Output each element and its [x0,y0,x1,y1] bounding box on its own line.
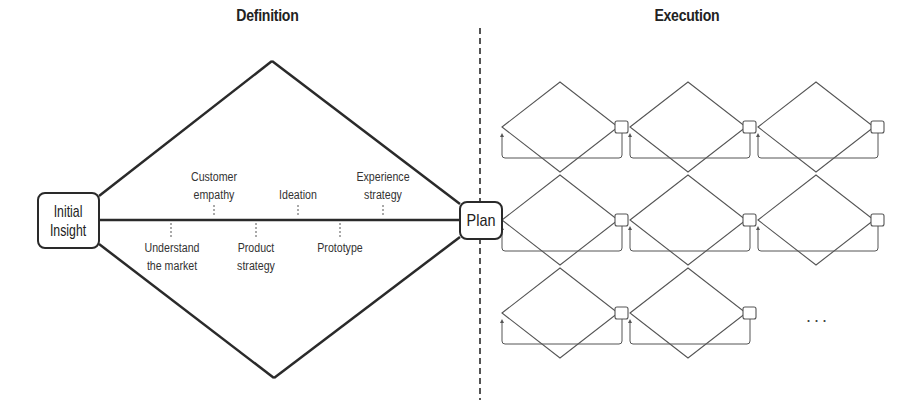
iteration-output-node [743,214,756,226]
execution-iteration [500,175,628,265]
execution-iteration [628,82,756,172]
iteration-output-node [615,214,628,226]
feedback-loop-arrow [630,226,750,251]
step-label-line: the market [145,257,200,275]
initial-insight-line-2: Insight [50,221,86,240]
feedback-loop-arrow [502,133,622,158]
initial-insight-line-1: Initial [50,202,86,221]
arrowhead-icon [628,133,632,137]
plan-label: Plan [467,211,496,230]
step-label-line: Customer [191,168,237,186]
feedback-loop-arrow [502,226,622,251]
arrowhead-icon [628,319,632,323]
feedback-loop-arrow [758,226,878,251]
step-understand-the-market: Understand the market [145,239,200,275]
arrowhead-icon [500,319,504,323]
feedback-loop-arrow [502,319,622,344]
step-label-line: Product [237,239,275,257]
iteration-output-node [615,307,628,319]
iteration-output-node [871,214,884,226]
iteration-output-node [871,121,884,133]
step-ideation: Ideation [279,186,317,204]
continuation-ellipsis: ... [806,306,830,327]
step-product-strategy: Product strategy [237,239,275,275]
execution-iteration [756,82,884,172]
step-label-line: Understand [145,239,200,257]
arrowhead-icon [500,133,504,137]
step-customer-empathy: Customer empathy [191,168,237,204]
execution-iteration [628,175,756,265]
step-label-line: strategy [356,186,409,204]
iteration-output-node [743,121,756,133]
execution-iteration [756,175,884,265]
plan-node: Plan [459,201,503,240]
execution-iteration [500,82,628,172]
step-label-line: strategy [237,257,275,275]
step-prototype: Prototype [317,239,362,257]
definition-heading: Definition [236,7,298,25]
execution-iteration [500,268,628,358]
step-label-line: Experience [356,168,409,186]
arrowhead-icon [628,226,632,230]
feedback-loop-arrow [630,319,750,344]
feedback-loop-arrow [758,133,878,158]
feedback-loop-arrow [630,133,750,158]
step-experience-strategy: Experience strategy [356,168,409,204]
arrowhead-icon [756,226,760,230]
iteration-output-node [615,121,628,133]
step-label-line: empathy [191,186,237,204]
arrowhead-icon [756,133,760,137]
execution-heading: Execution [654,7,719,25]
execution-iteration [628,268,756,358]
initial-insight-node: InitialInsight [37,192,100,249]
iteration-output-node [743,307,756,319]
step-label-line: Prototype [317,239,362,257]
step-label-line: Ideation [279,186,317,204]
